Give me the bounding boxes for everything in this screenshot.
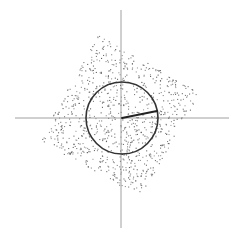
diagram-canvas bbox=[0, 0, 237, 239]
scatter-diagram bbox=[0, 0, 237, 239]
point-cloud bbox=[42, 36, 197, 192]
